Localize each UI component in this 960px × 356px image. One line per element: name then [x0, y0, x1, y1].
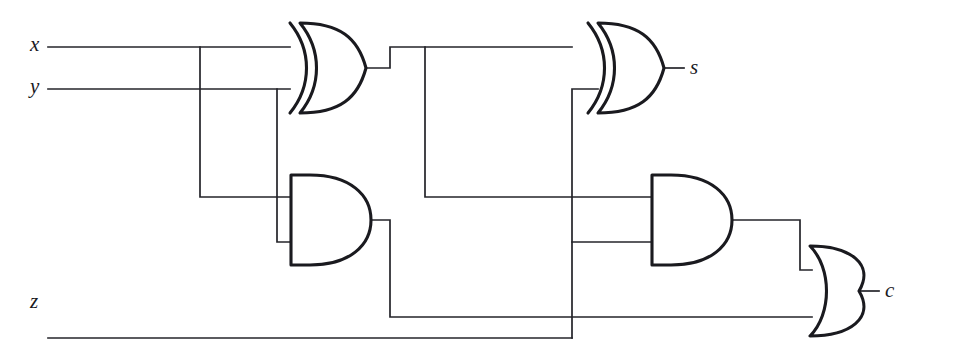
wire-xor1-output-to-xor2: [366, 47, 572, 68]
xor-gate-1-body: [300, 23, 366, 113]
and-gate-2-body: [652, 175, 732, 265]
input-label-y: y: [30, 76, 39, 97]
xor-gate-1: [290, 23, 366, 113]
circuit-canvas: [0, 0, 960, 356]
xor-gate-1-back-arc: [290, 23, 307, 113]
output-label-c: c: [885, 280, 894, 301]
logic-circuit-diagram: x y z s c: [0, 0, 960, 356]
wire-and2-output-to-or: [732, 220, 812, 270]
and-gate-2: [652, 175, 732, 265]
or-gate-1: [810, 246, 864, 336]
xor-gate-2-body: [598, 23, 664, 113]
xor-gate-2-back-arc: [588, 23, 605, 113]
xor-gate-2: [588, 23, 664, 113]
input-label-z: z: [30, 291, 38, 312]
wire-z-branch-to-xor2: [572, 89, 598, 338]
or-gate-1-body: [810, 246, 864, 336]
output-label-s: s: [690, 57, 698, 78]
and-gate-1-body: [291, 175, 371, 265]
wire-and1-output-to-or: [371, 220, 812, 317]
and-gate-1: [291, 175, 371, 265]
input-label-x: x: [30, 34, 39, 55]
